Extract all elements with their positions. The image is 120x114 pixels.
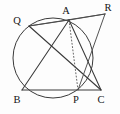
vertex-label-R: R xyxy=(104,2,111,13)
segment-RP xyxy=(78,14,105,90)
vertex-label-P: P xyxy=(73,94,79,105)
geometry-figure-container: Q A R B P C xyxy=(0,0,120,114)
segment-AC xyxy=(69,20,101,90)
vertex-label-C: C xyxy=(97,94,104,105)
vertex-label-B: B xyxy=(13,94,20,105)
vertex-label-A: A xyxy=(62,5,70,16)
segment-QC xyxy=(29,26,101,90)
vertex-label-Q: Q xyxy=(13,15,21,26)
geometry-diagram: Q A R B P C xyxy=(0,0,120,114)
